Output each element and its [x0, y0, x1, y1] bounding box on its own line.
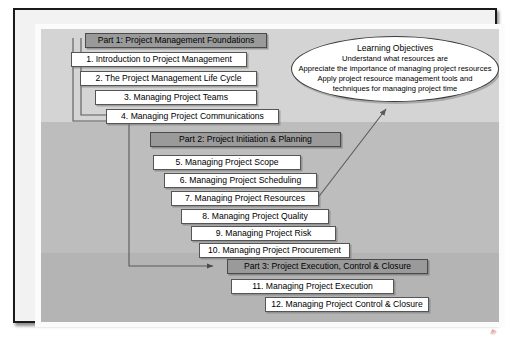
chapter-box-2[interactable]: 2. The Project Management Life Cycle — [80, 71, 257, 86]
slide-screenshot: Part 1: Project Management Foundations 1… — [0, 0, 521, 339]
chapter-box-3[interactable]: 3. Managing Project Teams — [95, 90, 257, 105]
callout-line-3: Apply project resource management tools … — [292, 74, 498, 84]
callout-line-2: Appreciate the importance of managing pr… — [292, 64, 498, 74]
callout-line-1: Understand what resources are — [292, 54, 498, 64]
part-header-3[interactable]: Part 3: Project Execution, Control & Clo… — [227, 259, 428, 274]
chapter-box-1[interactable]: 1. Introduction to Project Management — [71, 52, 247, 67]
chapter-box-11[interactable]: 11. Managing Project Execution — [231, 279, 394, 294]
chapter-box-4[interactable]: 4. Managing Project Communications — [106, 109, 279, 124]
chapter-box-12[interactable]: 12. Managing Project Control & Closure — [265, 297, 429, 312]
chapter-box-5[interactable]: 5. Managing Project Scope — [153, 155, 301, 170]
part-header-2[interactable]: Part 2: Project Initiation & Planning — [150, 132, 341, 147]
slide-frame: Part 1: Project Management Foundations 1… — [13, 8, 497, 323]
diagram-canvas: Part 1: Project Management Foundations 1… — [41, 29, 499, 322]
chapter-box-8[interactable]: 8. Managing Project Quality — [181, 209, 329, 224]
part-header-1[interactable]: Part 1: Project Management Foundations — [85, 33, 267, 48]
chapter-box-7[interactable]: 7. Managing Project Resources — [171, 191, 319, 206]
chapter-box-10[interactable]: 10. Managing Project Procurement — [199, 243, 350, 258]
callout-title: Learning Objectives — [292, 43, 498, 53]
chapter-box-6[interactable]: 6. Managing Project Scheduling — [164, 173, 317, 188]
learning-objectives-callout[interactable]: Learning Objectives Understand what reso… — [291, 36, 499, 102]
callout-line-4: techniques for managing project time — [292, 84, 498, 94]
chapter-box-9[interactable]: 9. Managing Project Risk — [191, 226, 336, 241]
registration-tick — [490, 329, 497, 336]
connector-ch7-objectives — [317, 109, 386, 199]
